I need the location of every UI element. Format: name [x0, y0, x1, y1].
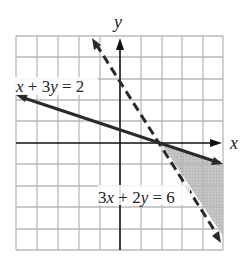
line2-label: 3x + 2y = 6	[98, 188, 175, 207]
line2-arrow-bottom-icon	[212, 231, 221, 243]
line1-arrow-right-icon	[211, 157, 223, 165]
y-axis-arrow-icon	[116, 38, 124, 50]
graph: y x x + 3y = 2 3x + 2y = 6	[0, 0, 249, 266]
line1-label: x + 3y = 2	[15, 77, 84, 96]
line-x-plus-3y-eq-2	[24, 98, 220, 163]
x-axis-arrow-icon	[210, 139, 222, 147]
x-axis-label: x	[229, 133, 238, 153]
y-axis-label: y	[112, 12, 122, 32]
